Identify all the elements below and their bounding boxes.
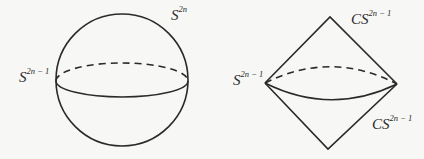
cone-equator-label: S2n − 1: [233, 73, 263, 88]
sphere-top-label-sup: 2n: [179, 4, 188, 14]
cone-equator-front: [265, 83, 397, 100]
cone-equator-back-dashed: [265, 67, 397, 84]
sphere-equator-label: S2n − 1: [19, 70, 49, 85]
cone-equator-label-sup: 2n − 1: [241, 69, 264, 79]
sphere-top-label: S2n: [171, 8, 187, 23]
sphere-equator-label-base: S: [19, 69, 27, 85]
cone-equator-label-base: S: [233, 72, 241, 88]
upper-cone-label: CS2n − 1: [351, 12, 391, 27]
sphere-outline: [56, 14, 188, 146]
lower-cone-label-sup: 2n − 1: [390, 113, 413, 123]
lower-cone-label-base: CS: [372, 116, 390, 132]
sphere-figure: [56, 14, 188, 146]
sphere-top-label-base: S: [171, 7, 179, 23]
sphere-equator-front: [56, 81, 188, 97]
diagram-canvas: S2n S2n − 1 S2n − 1 CS2n − 1 CS2n − 1: [0, 0, 424, 159]
upper-cone-label-sup: 2n − 1: [369, 8, 392, 18]
upper-cone-outline: [265, 17, 397, 84]
sphere-equator-back-dashed: [56, 63, 188, 81]
sphere-equator-label-sup: 2n − 1: [27, 66, 50, 76]
upper-cone-label-base: CS: [351, 11, 369, 27]
lower-cone-label: CS2n − 1: [372, 117, 412, 132]
